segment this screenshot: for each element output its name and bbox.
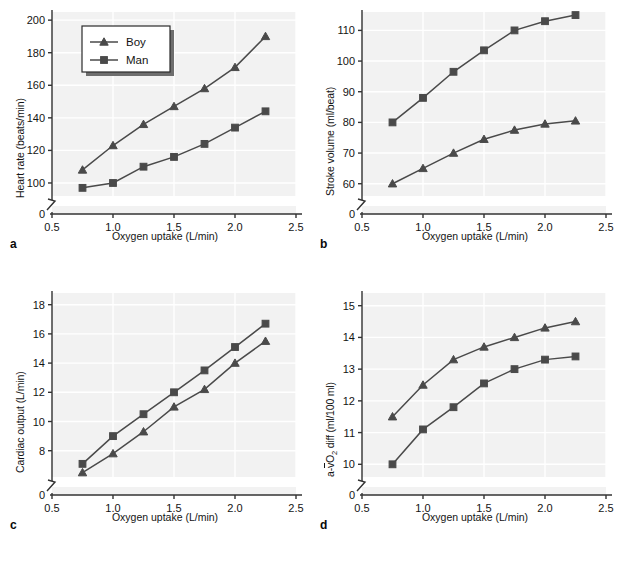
data-point-square [232, 124, 239, 131]
data-point-square [542, 356, 549, 363]
panel-a: 10012014016018020000.51.01.52.02.5BoyMan… [0, 0, 310, 281]
x-tick-label: 2.5 [598, 502, 613, 514]
legend-entry-man-label: Man [126, 54, 148, 66]
panel-b-letter: b [320, 237, 327, 251]
plot-background-lower [362, 487, 606, 495]
panel-d-ylabel-suffix: diff (ml/100 ml) [324, 382, 336, 451]
y-tick-label: 110 [337, 24, 355, 36]
data-point-square [450, 404, 457, 411]
panel-c-xlabel: Oxygen uptake (L/min) [55, 511, 275, 523]
y-tick-label: 80 [343, 116, 355, 128]
panel-b: 6070809010011000.51.01.52.02.5 Stroke vo… [310, 0, 620, 281]
y-tick-label: 14 [33, 357, 45, 369]
y-tick-label: 70 [343, 147, 355, 159]
panel-d-ylabel-element: O [324, 455, 336, 463]
panel-c: 8101214161800.51.01.52.02.5 Cardiac outp… [0, 281, 310, 562]
panel-d-xlabel: Oxygen uptake (L/min) [365, 511, 585, 523]
panel-d-ylabel: a-vO2 diff (ml/100 ml) [324, 382, 339, 477]
data-point-square [110, 180, 117, 187]
x-tick-label: 2.5 [598, 221, 613, 233]
data-point-square [511, 366, 518, 373]
y-tick-label: 60 [343, 178, 355, 190]
data-point-square [572, 353, 579, 360]
y-tick-label: 120 [27, 144, 45, 156]
y-tick-label: 18 [33, 299, 45, 311]
data-point-square [140, 411, 147, 418]
data-point-square [79, 184, 86, 191]
panel-b-xlabel: Oxygen uptake (L/min) [365, 230, 585, 242]
y-axis-zero-label: 0 [39, 208, 45, 220]
y-tick-label: 140 [27, 112, 45, 124]
x-tick-label: 2.5 [288, 221, 303, 233]
data-point-square [201, 140, 208, 147]
y-tick-label: 16 [33, 328, 45, 340]
y-tick-label: 10 [343, 458, 355, 470]
data-point-square [262, 320, 269, 327]
data-point-square [542, 18, 549, 25]
data-point-square [481, 47, 488, 54]
x-tick-label: 2.5 [288, 502, 303, 514]
data-point-square [232, 344, 239, 351]
y-tick-label: 180 [27, 47, 45, 59]
y-tick-label: 15 [343, 300, 355, 312]
panel-d-letter: d [320, 518, 327, 532]
data-point-square [389, 461, 396, 468]
data-point-square [110, 433, 117, 440]
plot-background-lower [362, 206, 606, 214]
panel-d-ylabel-overline: v [324, 463, 336, 468]
y-tick-label: 200 [27, 14, 45, 26]
y-tick-label: 11 [344, 427, 355, 439]
panel-d: 10111213141500.51.01.52.02.5 a-vO2 diff … [310, 281, 620, 562]
panel-c-ylabel: Cardiac output (L/min) [14, 371, 26, 473]
data-point-square [450, 68, 457, 75]
data-point-square [420, 426, 427, 433]
panel-b-ylabel: Stroke volume (ml/beat) [324, 87, 336, 196]
data-point-square [511, 27, 518, 34]
data-point-square [171, 154, 178, 161]
y-tick-label: 10 [33, 416, 45, 428]
data-point-square [101, 57, 108, 64]
panel-d-ylabel-prefix: a- [324, 468, 336, 477]
y-tick-label: 12 [33, 386, 45, 398]
panel-d-ylabel-subscript: 2 [330, 451, 339, 455]
panel-a-xlabel: Oxygen uptake (L/min) [55, 230, 275, 242]
y-tick-label: 160 [27, 79, 45, 91]
figure-container: 10012014016018020000.51.01.52.02.5BoyMan… [0, 0, 620, 562]
data-point-square [572, 12, 579, 19]
y-tick-label: 8 [39, 445, 45, 457]
panel-c-letter: c [10, 518, 17, 532]
data-point-square [171, 389, 178, 396]
plot-background-lower [52, 206, 296, 214]
y-tick-label: 100 [27, 177, 45, 189]
y-tick-label: 14 [343, 331, 355, 343]
data-point-square [79, 460, 86, 467]
data-point-square [262, 108, 269, 115]
panel-a-ylabel: Heart rate (beats/min) [14, 98, 26, 198]
data-point-square [389, 119, 396, 126]
data-point-square [201, 367, 208, 374]
plot-background-lower [52, 487, 296, 495]
data-point-square [140, 163, 147, 170]
legend-entry-boy-label: Boy [126, 36, 146, 48]
panel-a-letter: a [10, 237, 17, 251]
y-tick-label: 90 [343, 86, 355, 98]
y-axis-zero-label: 0 [349, 489, 355, 501]
data-point-square [420, 94, 427, 101]
y-axis-zero-label: 0 [39, 489, 45, 501]
y-tick-label: 13 [343, 363, 355, 375]
data-point-square [481, 380, 488, 387]
y-tick-label: 12 [343, 395, 355, 407]
y-tick-label: 100 [337, 55, 355, 67]
y-axis-zero-label: 0 [349, 208, 355, 220]
